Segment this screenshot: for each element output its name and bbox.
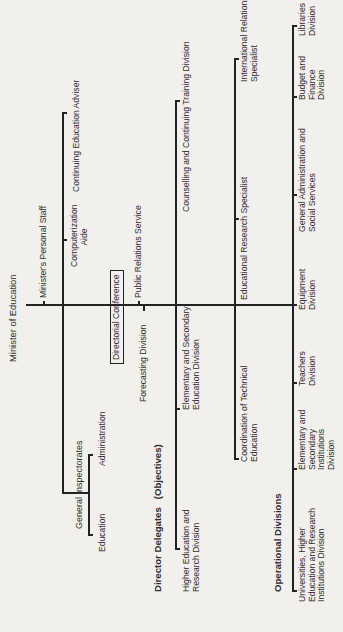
directorial-conference-box: Directorial Conference — [110, 271, 124, 365]
org-chart: Minister of Education Minister's Persona… — [0, 0, 343, 632]
specialist-educational-research: Educational Research Specialist — [240, 177, 250, 300]
division-budget-finance: Budget and Finance Division — [298, 54, 327, 100]
main-trunk-line — [26, 304, 294, 306]
delegate-item-higher-education: Higher Education and Research Division — [182, 482, 201, 592]
delegate-tick-3 — [175, 100, 180, 102]
delegate-item-elementary-secondary: Elementary and Secondary Education Divis… — [182, 270, 201, 410]
general-inspectorates-label: General Inspectorates — [75, 440, 85, 529]
division-elementary-secondary-institutions: Elementary and Secondary Institutions Di… — [298, 400, 336, 470]
personal-staff-connector — [43, 301, 45, 306]
division-universities: Universities, Higher Education and Resea… — [298, 494, 327, 602]
computerization-tick — [62, 239, 67, 241]
computerization-aide-label: Computerization Aide — [70, 207, 89, 267]
forecasting-connector — [143, 306, 145, 311]
public-relations-connector — [138, 301, 140, 306]
operational-divisions-bar — [292, 27, 294, 592]
forecasting-division-label: Forecasting Division — [139, 325, 149, 402]
continuing-adviser-tick — [62, 112, 67, 114]
education-inspectorate-label: Education — [98, 514, 108, 552]
director-delegates-bar — [175, 102, 177, 550]
education-tick — [88, 534, 93, 536]
continuing-education-adviser-label: Continuing Education Adviser — [72, 80, 82, 192]
operational-divisions-heading: Operational Divisions — [272, 493, 283, 592]
inspectorates-bar — [88, 456, 90, 536]
public-relations-label: Public Relations Service — [134, 205, 144, 298]
specialist-coordination-technical: Coordination of Technical Education — [240, 352, 259, 462]
division-teachers: Teachers Division — [298, 336, 317, 386]
division-general-administration: General Administration and Social Servic… — [298, 114, 317, 232]
specialists-bar — [234, 60, 236, 460]
delegate-tick-1 — [175, 548, 180, 550]
minister-title: Minister of Education — [8, 274, 18, 362]
division-equipment: Equipment Division — [298, 254, 317, 310]
delegate-item-counselling: Counselling and Continuing Training Divi… — [182, 41, 192, 212]
division-libraries: Libraries Division — [298, 0, 317, 36]
staff-bar-line — [62, 114, 64, 494]
director-delegates-heading: Director Delegates (Objectives) — [152, 444, 163, 592]
delegate-tick-2 — [175, 408, 180, 410]
specialist-international-relations: International Relations Specialist — [240, 0, 259, 82]
personal-staff-label: Minister's Personal Staff — [39, 206, 49, 298]
administration-inspectorate-label: Administration — [98, 412, 108, 466]
administration-tick — [88, 454, 93, 456]
